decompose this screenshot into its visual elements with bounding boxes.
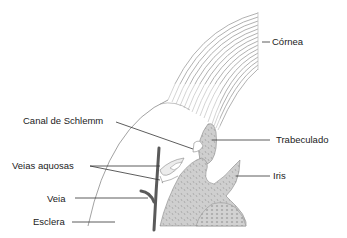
label-trabecular: Trabeculado [276, 135, 328, 145]
label-sclera: Esclera [33, 217, 65, 227]
label-aqueous-veins: Veias aquosas [12, 161, 74, 171]
vein-shape [154, 148, 159, 230]
limbus-fade [160, 84, 220, 130]
label-cornea: Córnea [272, 37, 303, 47]
label-schlemm-canal: Canal de Schlemm [23, 116, 103, 126]
eye-angle-diagram: Córnea Canal de Schlemm Trabeculado Veia… [0, 0, 347, 238]
label-vein: Veia [47, 194, 66, 204]
leader-aqueous-2 [90, 166, 160, 180]
vein-branch-shape [141, 191, 154, 202]
label-iris: Iris [273, 171, 286, 181]
